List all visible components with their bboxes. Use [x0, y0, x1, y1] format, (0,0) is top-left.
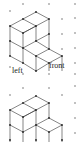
- isometric-diagram: left front: [0, 0, 83, 142]
- left-label: left: [12, 66, 23, 75]
- bottom-figure: [9, 95, 63, 142]
- front-label: front: [49, 61, 65, 70]
